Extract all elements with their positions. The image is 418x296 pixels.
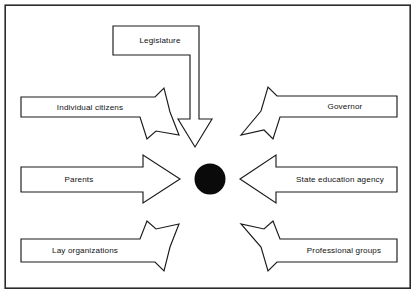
label-individual-citizens: Individual citizens — [57, 103, 123, 112]
label-legislature: Legislature — [139, 36, 181, 45]
label-state-education-agency: State education agency — [296, 175, 385, 184]
center-node — [195, 164, 226, 195]
label-governor: Governor — [328, 102, 363, 111]
label-professional-groups: Professional groups — [307, 246, 381, 255]
label-parents: Parents — [65, 175, 94, 184]
diagram-svg: Legislature Individual citizens Governor… — [0, 0, 418, 296]
label-lay-organizations: Lay organizations — [52, 246, 118, 255]
diagram-canvas: Legislature Individual citizens Governor… — [0, 0, 418, 296]
